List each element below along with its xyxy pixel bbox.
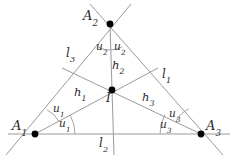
angle-label-u1-lower: u1 bbox=[59, 118, 70, 131]
vertex-label-A3: A3 bbox=[206, 119, 221, 135]
angle-label-u2-left: u2 bbox=[96, 41, 107, 54]
vertex-label-A2-subscript: 2 bbox=[93, 18, 99, 28]
angle-label-u1-upper-base: u bbox=[53, 102, 60, 114]
bisector-h1 bbox=[35, 68, 158, 134]
angle-label-u1-lower-base: u bbox=[59, 117, 66, 129]
side-label-l1: l1 bbox=[162, 68, 171, 83]
angle-label-u1-lower-subscript: 1 bbox=[66, 125, 71, 134]
angle-label-u3-lower: u3 bbox=[160, 119, 171, 132]
angle-label-u3-lower-subscript: 3 bbox=[167, 126, 172, 135]
angle-label-u2-right-subscript: 2 bbox=[121, 48, 126, 57]
vertex-dot-A1 bbox=[32, 131, 39, 138]
vertex-label-A2: A2 bbox=[83, 9, 98, 25]
bisector-label-h1-subscript: 1 bbox=[82, 94, 87, 103]
vertex-label-A3-base: A bbox=[206, 118, 215, 133]
vertex-label-A1: A1 bbox=[12, 119, 27, 135]
incenter-label-base: I bbox=[106, 91, 111, 105]
bisector-label-h2: h2 bbox=[112, 60, 124, 74]
angle-label-u2-right: u2 bbox=[114, 41, 125, 54]
angle-label-u2-right-base: u bbox=[114, 40, 121, 52]
side-label-l3: l3 bbox=[66, 47, 75, 62]
bisector-label-h3: h3 bbox=[142, 92, 154, 106]
bisector-label-h2-subscript: 2 bbox=[120, 67, 125, 76]
lines-group bbox=[6, 4, 230, 155]
vertex-dot-A3 bbox=[198, 131, 205, 138]
angle-label-u2-left-base: u bbox=[96, 40, 103, 52]
vertex-label-A1-subscript: 1 bbox=[22, 128, 28, 138]
bisector-label-h3-base: h bbox=[142, 90, 149, 104]
bisector-label-h1-base: h bbox=[74, 85, 81, 99]
angle-label-u1-upper: u1 bbox=[53, 103, 64, 116]
arc-A1-lower bbox=[70, 115, 75, 134]
bisector-label-h1: h1 bbox=[74, 87, 86, 101]
side-label-l3-subscript: 3 bbox=[70, 54, 75, 64]
bisector-label-h3-subscript: 3 bbox=[150, 99, 155, 108]
vertex-label-A1-base: A bbox=[12, 118, 21, 133]
vertex-label-A2-base: A bbox=[83, 8, 92, 23]
side-label-l2: l2 bbox=[99, 137, 108, 152]
diagram-canvas bbox=[0, 0, 237, 159]
side-label-l1-subscript: 1 bbox=[166, 75, 171, 85]
angle-label-u2-left-subscript: 2 bbox=[103, 48, 108, 57]
angle-label-u3-upper-subscript: 3 bbox=[176, 115, 181, 124]
side-label-l2-subscript: 2 bbox=[103, 144, 108, 154]
angle-label-u3-upper-base: u bbox=[169, 107, 176, 119]
geometry-figure: A1A2A3Il1l2l3h1h2h3u1u1u2u2u3u3 bbox=[0, 0, 237, 159]
vertex-label-A3-subscript: 3 bbox=[216, 128, 222, 138]
angle-label-u3-lower-base: u bbox=[160, 118, 167, 130]
incenter-label: I bbox=[106, 92, 111, 104]
bisector-label-h2-base: h bbox=[112, 58, 119, 72]
vertex-dot-A2 bbox=[107, 21, 114, 28]
